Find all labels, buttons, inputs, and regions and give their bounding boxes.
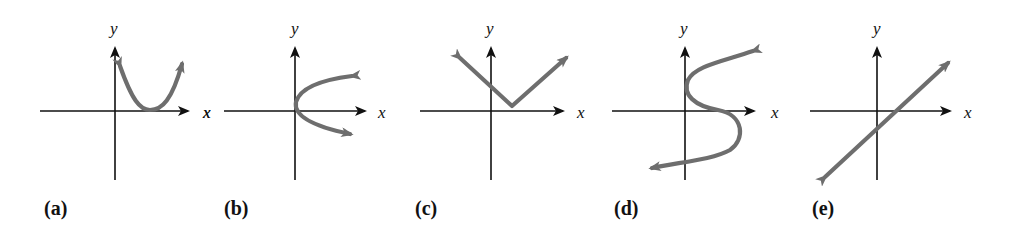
y-axis-label: y xyxy=(484,19,494,38)
panel-label: (c) xyxy=(415,197,437,220)
x-axis-label: x xyxy=(963,103,972,122)
x-axis-label: x xyxy=(377,103,386,122)
graphs-figure: y x (a) x y x (b) y x (c) y x (d) y x xyxy=(0,0,1022,243)
parabola-right-curve xyxy=(296,76,352,134)
straight-line-curve xyxy=(825,63,948,177)
panel-b: x y x (b) xyxy=(202,19,386,220)
s-shape-curve xyxy=(652,51,753,168)
y-axis-label: y xyxy=(289,19,299,38)
panel-c: y x (c) xyxy=(415,19,585,220)
panel-e: y x (e) xyxy=(810,19,972,220)
panel-label: (b) xyxy=(224,197,248,220)
panel-a: y x (a) xyxy=(40,19,211,220)
parabola-up-curve xyxy=(120,64,182,110)
panel-label: (e) xyxy=(812,197,834,220)
panel-label: (d) xyxy=(614,197,638,220)
panel-d: y x (d) xyxy=(612,19,779,220)
x-axis-label-left: x xyxy=(202,103,211,122)
panel-label: (a) xyxy=(44,197,67,220)
y-axis-label: y xyxy=(871,19,881,38)
x-axis-label: x xyxy=(770,103,779,122)
x-axis-label: x xyxy=(576,103,585,122)
y-axis-label: y xyxy=(678,19,688,38)
y-axis-label: y xyxy=(108,19,118,38)
v-shape-curve xyxy=(460,58,566,106)
